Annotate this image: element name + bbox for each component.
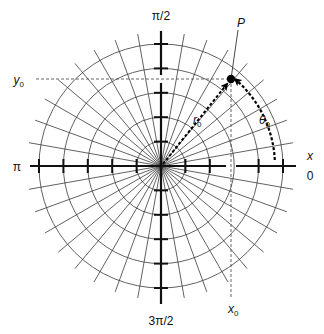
label-theta0: θ0 — [259, 113, 271, 129]
label-r0-sub: 0 — [197, 120, 202, 129]
label-x-axis: x — [306, 149, 314, 163]
label-x0: x0 — [227, 302, 239, 318]
polar-diagram: π/2 3π/2 π x 0 P y0 x0 r0 θ0 — [0, 0, 324, 334]
label-zero: 0 — [307, 169, 314, 183]
label-x0-sub: 0 — [234, 309, 239, 318]
label-y0: y0 — [13, 73, 25, 89]
label-pi: π — [13, 160, 21, 174]
label-point-p: P — [237, 16, 245, 30]
polar-grid-svg: π/2 3π/2 π x 0 P y0 x0 r0 θ0 — [0, 0, 324, 334]
label-pi-over-2: π/2 — [152, 9, 171, 23]
label-y0-sub: 0 — [20, 80, 25, 89]
point-p-leader-line — [231, 30, 238, 79]
label-theta0-sub: 0 — [266, 120, 271, 129]
point-p-dot — [227, 75, 235, 83]
label-3pi-over-2: 3π/2 — [149, 314, 174, 328]
